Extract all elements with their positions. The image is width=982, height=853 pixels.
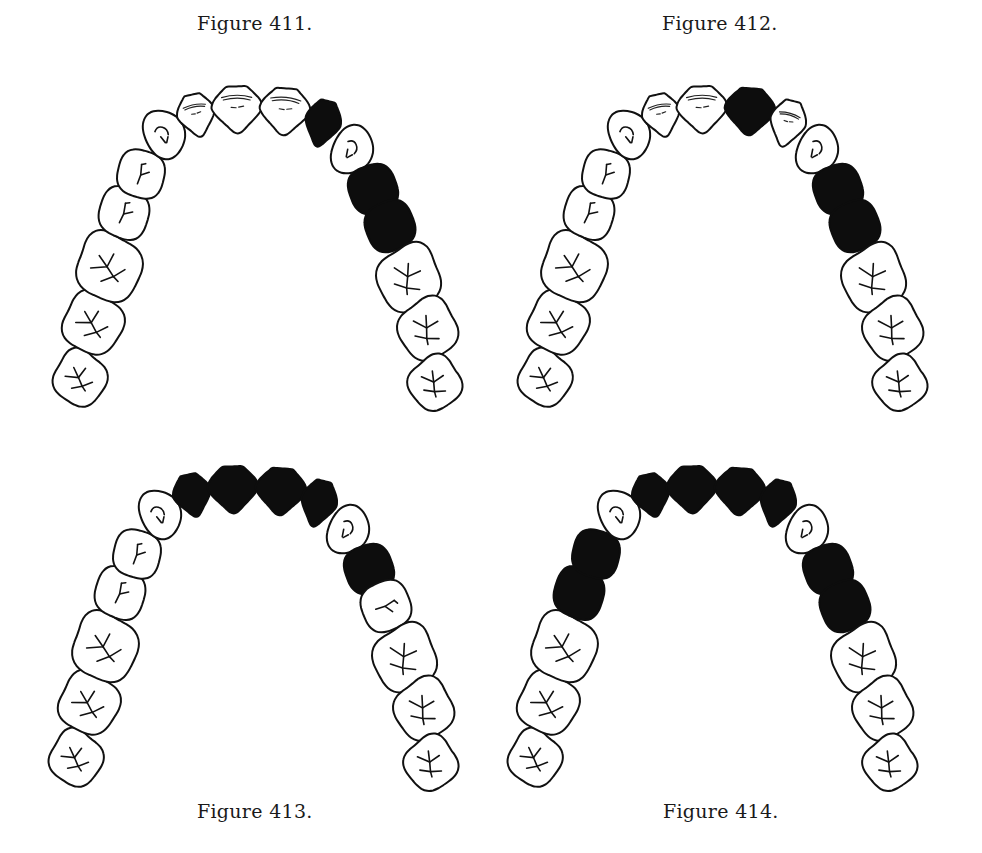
tooth-fissure — [192, 114, 196, 115]
figure-caption-fig413: Figure 413. — [197, 800, 313, 822]
figures-canvas — [0, 0, 982, 853]
tooth-R-m3 — [869, 350, 932, 415]
tooth-outline — [869, 350, 932, 415]
dental-arch-fig413 — [43, 465, 462, 794]
tooth-outline — [258, 87, 312, 138]
tooth-fissure — [657, 114, 661, 115]
dental-arch-fig412 — [512, 85, 931, 414]
tooth-R-central-filled — [723, 87, 777, 138]
tooth-outline — [211, 85, 264, 134]
figure-caption-fig411: Figure 411. — [197, 12, 313, 34]
tooth-R-m3 — [400, 730, 463, 795]
tooth-L-central-filled — [207, 465, 260, 514]
tooth-outline — [207, 465, 260, 514]
tooth-R-m3 — [404, 350, 467, 415]
tooth-R-m3 — [859, 730, 922, 795]
tooth-L-central — [676, 85, 729, 134]
tooth-outline — [254, 467, 308, 518]
dental-arch-fig414 — [502, 465, 921, 794]
tooth-fissure — [231, 107, 236, 108]
tooth-outline — [400, 730, 463, 795]
figure-caption-fig414: Figure 414. — [663, 800, 779, 822]
figure-caption-fig412: Figure 412. — [662, 12, 778, 34]
tooth-outline — [666, 465, 719, 514]
dental-arch-fig411 — [47, 85, 466, 414]
tooth-outline — [404, 350, 467, 415]
tooth-R-central-filled — [254, 467, 308, 518]
tooth-L-central-filled — [666, 465, 719, 514]
tooth-outline — [676, 85, 729, 134]
tooth-R-central-filled — [713, 467, 767, 518]
tooth-outline — [723, 87, 777, 138]
tooth-outline — [713, 467, 767, 518]
tooth-fissure — [696, 107, 701, 108]
tooth-L-central — [211, 85, 264, 134]
tooth-R-central — [258, 87, 312, 138]
tooth-outline — [859, 730, 922, 795]
